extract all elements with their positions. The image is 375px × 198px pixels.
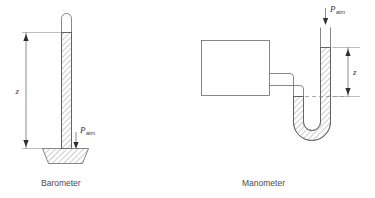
manometer-u-tube-inner-wall [304, 28, 321, 131]
barometer-reservoir [43, 149, 89, 164]
diagram-canvas: z Patm Barometer [0, 0, 375, 198]
barometer-group: z Patm Barometer [15, 14, 96, 189]
barometer-mercury-column [62, 33, 72, 149]
manometer-caption: Manometer [242, 178, 285, 188]
barometer-patm-symbol: P [79, 125, 86, 135]
manometer-fluid [294, 48, 331, 141]
manometer-patm-label: Patm [329, 4, 346, 15]
physics-diagram-figure: z Patm Barometer [0, 0, 375, 198]
barometer-z-label: z [15, 86, 20, 96]
barometer-z-arrow-top-icon [23, 34, 28, 41]
manometer-patm-symbol: P [329, 4, 336, 14]
barometer-patm-label: Patm [79, 125, 96, 136]
manometer-z-arrow-top-icon [345, 49, 350, 56]
manometer-connector-top-wall [270, 74, 294, 97]
manometer-vessel [202, 41, 270, 96]
barometer-z-arrow-bottom-icon [23, 140, 28, 147]
manometer-connector-bottom-wall [270, 86, 304, 97]
barometer-caption: Barometer [41, 178, 81, 188]
manometer-group: z Patm Manometer [202, 4, 361, 188]
manometer-patm-subscript: atm [336, 9, 346, 15]
manometer-patm-arrowhead-icon [323, 18, 328, 25]
barometer-patm-subscript: atm [86, 130, 96, 136]
manometer-z-arrow-bottom-icon [345, 88, 350, 95]
barometer-patm-arrowhead-icon [73, 142, 78, 149]
manometer-z-label: z [352, 67, 357, 77]
